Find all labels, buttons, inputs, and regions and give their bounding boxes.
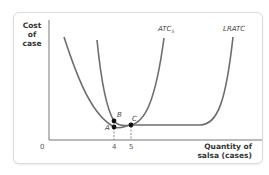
- y-axis-label-line2: case: [18, 39, 46, 48]
- point-a: [112, 125, 117, 130]
- y-axis-label-line1: Cost of: [18, 21, 46, 39]
- lratc-label: LRATC: [223, 25, 245, 34]
- atc5-label: ATC5: [158, 25, 174, 36]
- atc5-curve: [97, 38, 164, 126]
- y-axis-label: Cost of case: [18, 21, 46, 48]
- x-axis-label-line2: salsa (cases): [190, 151, 252, 160]
- x-axis-label: Quantity of salsa (cases): [190, 142, 252, 160]
- lratc-curve: [64, 37, 233, 128]
- point-b-label: B: [117, 111, 122, 120]
- tick-label-5: 5: [129, 143, 133, 151]
- tick-label-4: 4: [112, 143, 116, 151]
- point-b: [112, 119, 117, 124]
- atc5-label-sub: 5: [171, 29, 174, 34]
- origin-label: 0: [40, 143, 44, 151]
- point-a-label: A: [105, 124, 110, 133]
- point-c-label: C: [132, 115, 137, 124]
- x-axis-label-line1: Quantity of: [190, 142, 252, 151]
- atc5-label-main: ATC: [158, 25, 171, 33]
